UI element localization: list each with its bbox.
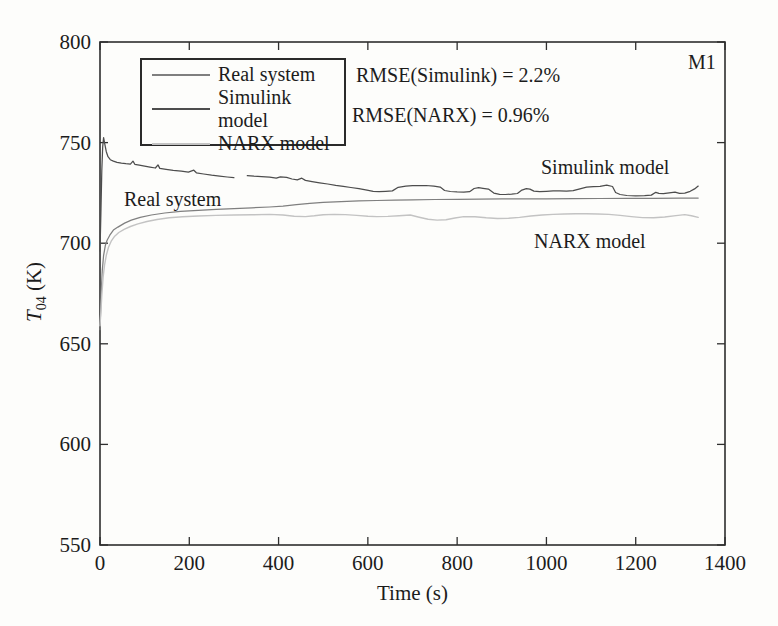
y-axis-title: T04 (K) [22, 262, 50, 322]
legend-label-narx-model: NARX model [218, 132, 330, 155]
rmse-narx-text: RMSE(NARX) = 0.96% [352, 104, 549, 127]
x-axis-title: Time (s) [100, 581, 725, 605]
simulink-model-line-sample [152, 108, 210, 110]
real-system-line-sample [152, 74, 210, 76]
series-line-real-system [100, 198, 698, 330]
legend-item-narx-model: NARX model [142, 132, 344, 155]
legend-item-simulink-model: Simulink model [142, 86, 344, 132]
y-tick-label-600: 600 [60, 432, 92, 456]
y-axis-variable: T [22, 310, 46, 322]
legend-item-real-system: Real system [142, 63, 344, 86]
annotation-narx-model: NARX model [534, 230, 646, 253]
x-tick-label-1200: 1200 [615, 551, 657, 575]
x-tick-label-0: 0 [95, 551, 106, 575]
legend-label-real-system: Real system [218, 63, 315, 86]
chart-canvas: 0200400600800100012001400550600650700750… [0, 0, 778, 626]
x-tick-label-200: 200 [174, 551, 206, 575]
y-tick-label-650: 650 [60, 332, 92, 356]
model-id-label: M1 [688, 51, 716, 74]
x-tick-label-1400: 1400 [704, 551, 746, 575]
rmse-simulink-text: RMSE(Simulink) = 2.2% [356, 64, 560, 87]
x-tick-label-400: 400 [263, 551, 295, 575]
y-tick-label-550: 550 [60, 533, 92, 557]
annotation-real-system: Real system [124, 188, 221, 211]
y-axis-unit: (K) [22, 262, 46, 296]
legend: Real system Simulink model NARX model [140, 58, 346, 146]
annotation-simulink-model: Simulink model [541, 156, 669, 179]
y-tick-label-750: 750 [60, 131, 92, 155]
x-tick-label-800: 800 [441, 551, 473, 575]
legend-label-simulink-model: Simulink model [218, 86, 344, 132]
y-tick-label-800: 800 [60, 30, 92, 54]
y-tick-label-700: 700 [60, 231, 92, 255]
narx-model-line-sample [152, 143, 210, 145]
y-axis-subscript: 04 [34, 296, 49, 310]
x-tick-label-1000: 1000 [525, 551, 567, 575]
x-tick-label-600: 600 [352, 551, 384, 575]
figure: 0200400600800100012001400550600650700750… [0, 0, 778, 626]
